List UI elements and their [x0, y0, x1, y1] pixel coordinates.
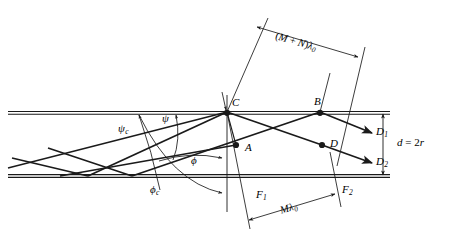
incident-arrow-at-C: [222, 92, 226, 110]
diagram-canvas: [0, 0, 461, 247]
point-label-D: D: [330, 138, 338, 149]
angle-arc-psi-c: [139, 115, 160, 190]
wavefront-line-F1: [227, 112, 250, 229]
wavefront-label-F1: F1: [256, 189, 267, 202]
angle-label-psi-c: ψc: [118, 123, 128, 136]
thickness-label: d = 2r: [397, 137, 424, 148]
angle-label-phi: ϕ: [191, 155, 197, 168]
ray-label-D2: D2: [376, 156, 388, 169]
wavefront-label-F2: F2: [342, 184, 353, 197]
wavefront-line-right: [320, 47, 365, 166]
waveguide-top-boundary: [8, 112, 390, 115]
point-marker-A: [233, 142, 239, 148]
wavefront-line-F2: [330, 152, 341, 207]
point-label-A: A: [245, 142, 252, 153]
point-marker-B: [317, 110, 323, 116]
angle-label-phi-c: ϕc: [150, 184, 159, 197]
point-label-B: B: [314, 96, 321, 107]
point-label-C: C: [232, 97, 239, 108]
angle-label-psi: ψ: [162, 113, 169, 126]
waveguide-ray-diagram: C B A D D1 D2 F1 F2 ψc ψ ϕ ϕc (M + N)λ0 …: [0, 0, 461, 247]
angle-arc-psi: [173, 115, 178, 160]
point-marker-C: [224, 110, 230, 116]
ray-label-D1: D1: [376, 126, 388, 139]
point-marker-D: [319, 142, 325, 148]
